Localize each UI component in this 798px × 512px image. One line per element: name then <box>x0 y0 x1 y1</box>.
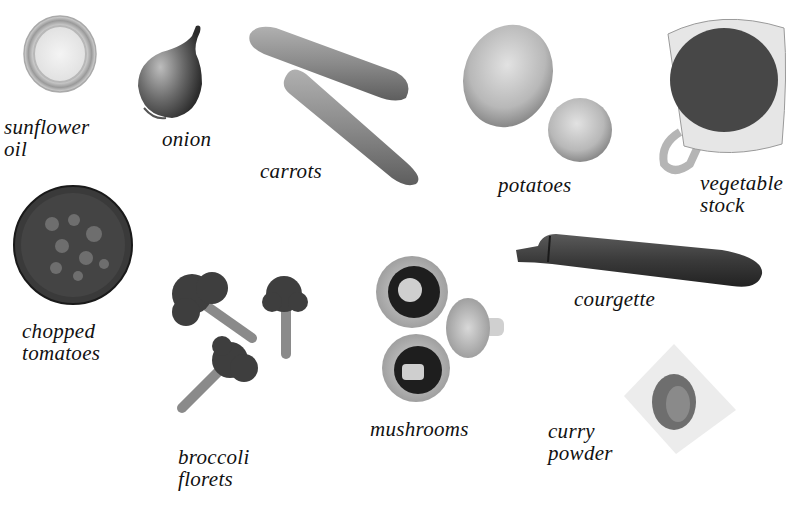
curry-powder-label: curry powder <box>548 420 613 464</box>
broccoli-florets-label: broccoli florets <box>178 446 250 490</box>
potatoes-label: potatoes <box>498 174 572 196</box>
sunflower-oil-label: sunflower oil <box>4 116 90 160</box>
vegetable-stock-label: vegetable stock <box>700 172 783 216</box>
mushrooms-image <box>374 252 514 410</box>
chopped-tomatoes-bowl-image <box>12 184 134 306</box>
onion-label: onion <box>162 128 211 150</box>
vegetable-stock-jug-image <box>660 14 786 174</box>
carrots-label: carrots <box>260 160 322 182</box>
chopped-tomatoes-label: chopped tomatoes <box>22 320 100 364</box>
sunflower-oil-dish-image <box>22 14 98 94</box>
broccoli-florets-image <box>168 266 318 420</box>
courgette-label: courgette <box>574 288 655 310</box>
curry-powder-image <box>624 344 736 454</box>
mushrooms-label: mushrooms <box>370 418 469 440</box>
onion-image <box>136 22 212 122</box>
potatoes-image <box>462 24 622 166</box>
courgette-image <box>512 228 766 292</box>
